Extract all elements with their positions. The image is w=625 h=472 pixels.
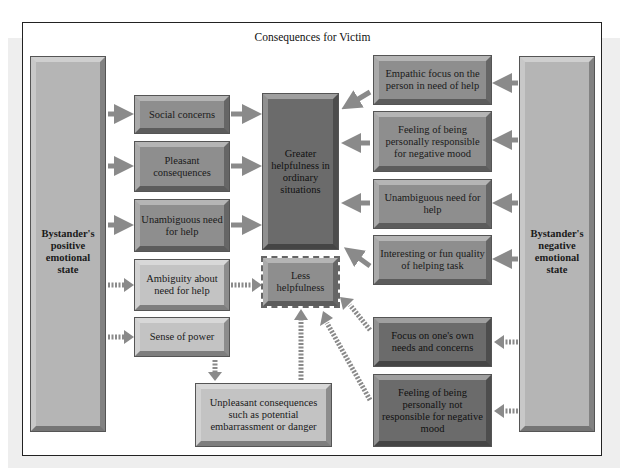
arrow-dotted <box>327 323 370 400</box>
arrow-solid <box>352 253 370 266</box>
arrow-solid <box>350 92 370 104</box>
arrows-layer <box>0 0 625 472</box>
arrow-dotted <box>350 305 370 330</box>
